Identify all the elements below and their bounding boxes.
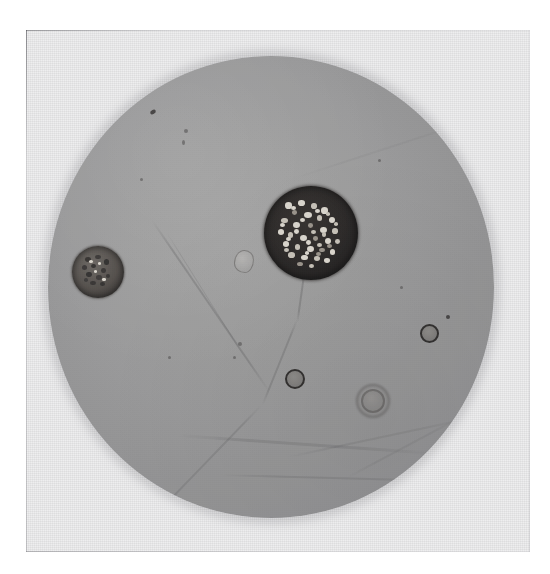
- diagonal-streak-right: [348, 415, 464, 478]
- print-edge-bottom: [26, 551, 530, 552]
- dust-speck-lower: [233, 356, 236, 359]
- dust-speck-upper-left-3: [182, 140, 185, 145]
- print-edge-right: [529, 30, 530, 552]
- diagonal-scratch-upper-left: [151, 220, 270, 393]
- small-ring-body-right: [420, 324, 439, 343]
- dust-speck-lower-right: [400, 286, 403, 289]
- dust-speck-mid: [238, 342, 242, 346]
- horizontal-streak-lower-2: [218, 474, 448, 482]
- small-ring-body-centre: [285, 369, 305, 389]
- air-bubble-artifact: [234, 250, 254, 273]
- dust-speck-right: [446, 315, 450, 319]
- photographic-print: [26, 30, 530, 552]
- large-granular-spore: [264, 186, 358, 280]
- small-granular-spore: [72, 246, 124, 298]
- print-edge-left: [26, 30, 27, 552]
- image-caption: Photomicrograph showing a circular micro…: [0, 0, 1, 1]
- vertical-crack-centre-2: [262, 319, 298, 405]
- dust-speck-upper-right: [378, 159, 381, 162]
- microscope-field-of-view: [48, 56, 494, 518]
- horizontal-streak-lower-3: [288, 416, 474, 457]
- spore-granules-large: [271, 193, 352, 274]
- dust-speck-upper-left-1: [149, 109, 156, 115]
- print-edge-top: [26, 30, 530, 31]
- horizontal-streak-upper-right: [298, 120, 470, 178]
- dust-speck-lower-left: [168, 356, 171, 359]
- faint-ring-halo-lower-right: [356, 384, 390, 418]
- horizontal-streak-lower: [178, 434, 438, 455]
- diagonal-scratch-lower-left: [156, 405, 262, 514]
- dust-speck-upper-left-2: [184, 129, 188, 133]
- dust-speck-upper-left-4: [140, 178, 143, 181]
- micrograph-page: Photomicrograph showing a circular micro…: [0, 0, 550, 574]
- spore-granules-small: [76, 250, 121, 295]
- diagonal-scratch-upper-left-2: [166, 232, 246, 360]
